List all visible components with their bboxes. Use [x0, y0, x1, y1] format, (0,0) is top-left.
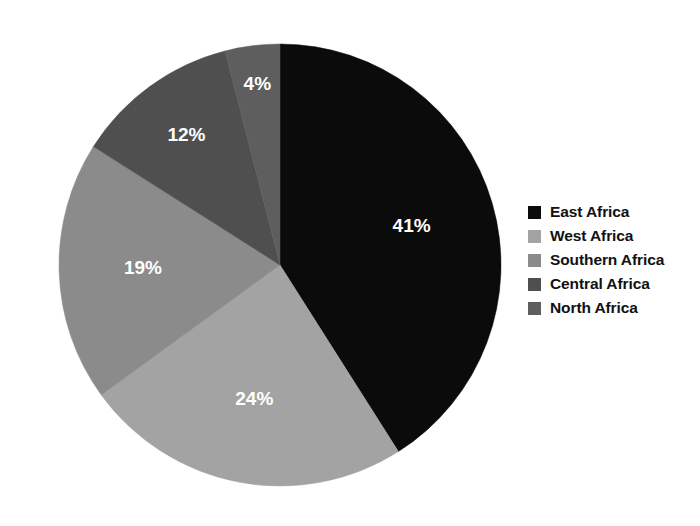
pie-chart-figure: 41%24%19%12%4% East Africa West Africa S… — [0, 0, 700, 526]
legend-swatch-central-africa — [528, 278, 541, 291]
pie-slice-value-southern-africa: 19% — [124, 257, 162, 278]
legend-item-west-africa[interactable]: West Africa — [528, 224, 696, 248]
legend-swatch-east-africa — [528, 206, 541, 219]
legend-label-southern-africa: Southern Africa — [550, 251, 664, 269]
pie-slice-value-east-africa: 41% — [393, 215, 431, 236]
legend-swatch-southern-africa — [528, 254, 541, 267]
pie-slice-value-west-africa: 24% — [235, 388, 273, 409]
legend-item-southern-africa[interactable]: Southern Africa — [528, 248, 696, 272]
legend-item-north-africa[interactable]: North Africa — [528, 296, 696, 320]
pie-slice-value-north-africa: 4% — [244, 73, 272, 94]
legend-swatch-west-africa — [528, 230, 541, 243]
legend-label-west-africa: West Africa — [550, 227, 633, 245]
legend-label-north-africa: North Africa — [550, 299, 638, 317]
legend-item-east-africa[interactable]: East Africa — [528, 200, 696, 224]
pie-slice-value-central-africa: 12% — [167, 124, 205, 145]
legend-item-central-africa[interactable]: Central Africa — [528, 272, 696, 296]
legend-swatch-north-africa — [528, 302, 541, 315]
legend-label-central-africa: Central Africa — [550, 275, 650, 293]
legend-label-east-africa: East Africa — [550, 203, 629, 221]
chart-legend: East Africa West Africa Southern Africa … — [528, 200, 696, 320]
